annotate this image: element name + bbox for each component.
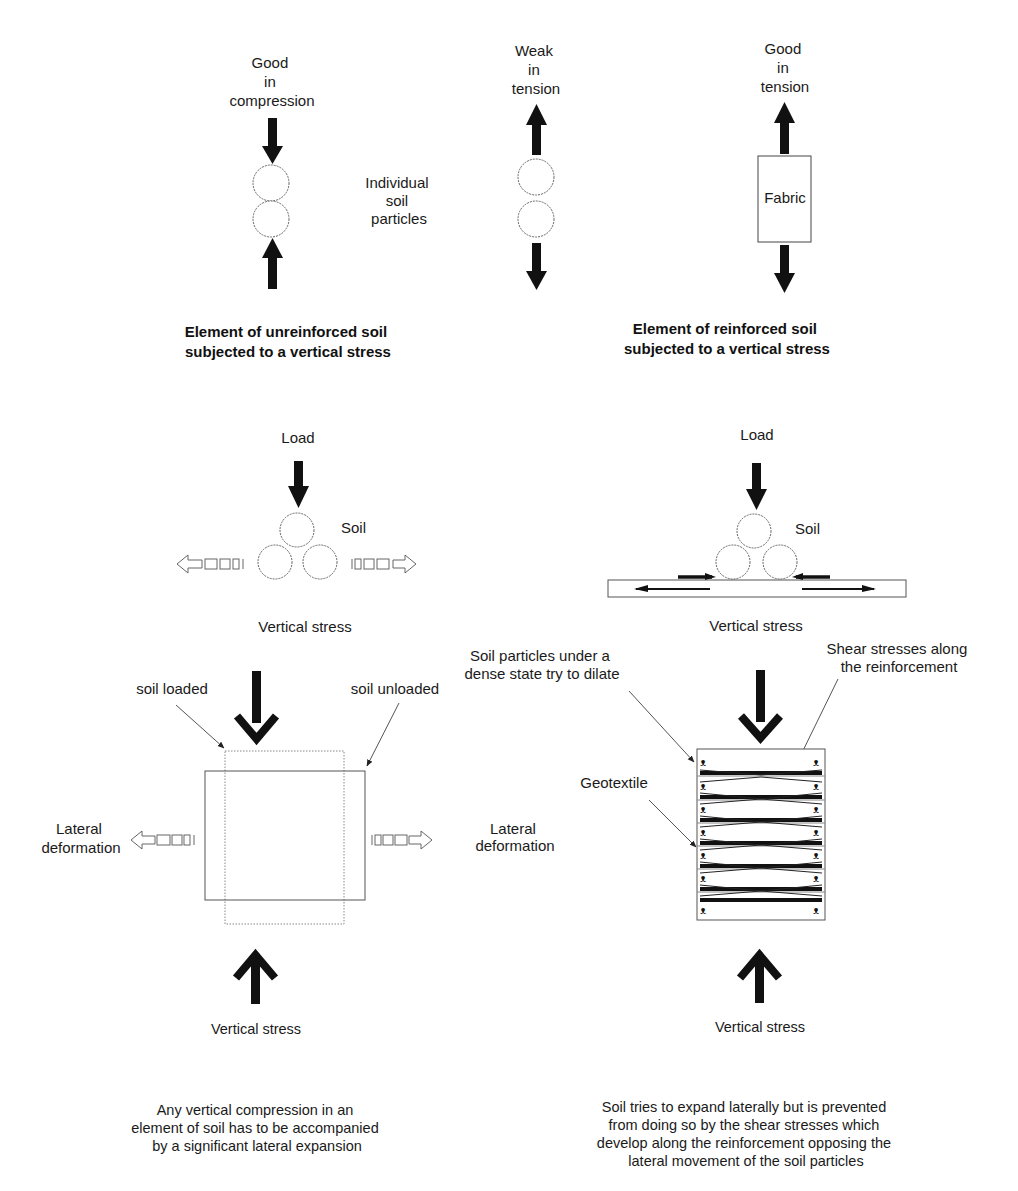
up-arrow-icon [262,238,283,289]
up-arrow-icon [740,955,779,1003]
good-in-compression-label: Good in compression [229,54,314,109]
soil-particle [258,545,292,579]
soil-particle [280,513,314,547]
up-arrow-icon [236,955,275,1004]
soil-particle [518,159,554,195]
unreinforced-caption: Element of unreinforced soil subjected t… [185,323,392,360]
unreinforced-explanation: Any vertical compression in an element o… [131,1102,383,1154]
soil-particle [716,545,750,579]
vertical-stress-label: Vertical stress [709,617,802,634]
soil-particle [518,201,554,237]
soil-unloaded-outline [205,771,365,900]
lateral-right-hollow-arrow-icon [372,831,432,849]
load-label: Load [281,429,314,446]
svg-text:ᴥ: ᴥ [700,850,706,861]
svg-text:ᴥ: ᴥ [813,873,819,884]
svg-text:ᴥ: ᴥ [700,804,706,815]
soil-label: Soil [795,520,820,537]
vertical-stress-label: Vertical stress [715,1019,805,1035]
good-in-tension-label: Good in tension [761,40,809,95]
svg-text:ᴥ: ᴥ [813,850,819,861]
svg-text:ᴥ: ᴥ [700,827,706,838]
geotextile-label: Geotextile [580,774,648,791]
lateral-deformation-left-label: Lateral deformation [41,820,120,856]
reinforced-layers-group: Soil particles under a dense state try t… [464,640,971,1169]
down-arrow-icon [288,461,309,508]
down-arrow-icon [262,118,283,164]
soil-reinforcement-diagram: Good in compression Individual soil part… [0,0,1018,1191]
soil-particle [763,545,797,579]
soil-unloaded-label: soil unloaded [351,680,439,697]
weak-in-tension-group: Weak in tension [512,42,560,290]
down-arrow-icon [741,670,780,738]
soil-unloaded-pointer [367,703,399,766]
reinforced-caption: Element of reinforced soil subjected to … [624,320,830,357]
unreinforced-element-group: Good in compression Individual soil part… [185,54,433,360]
weak-in-tension-label: Weak in tension [512,42,560,97]
lateral-left-hollow-arrow-icon [177,555,243,573]
unreinforced-load-group: Load Soil Vertical stress [177,429,416,635]
vertical-stress-label: Vertical stress [211,1021,301,1037]
reinforced-explanation: Soil tries to expand laterally but is pr… [597,1099,895,1169]
vertical-stress-label: Vertical stress [258,618,351,635]
fabric-label: Fabric [764,189,806,206]
individual-soil-particles-label: Individual soil particles [365,174,433,227]
down-arrow-icon [774,245,795,293]
soil-label: Soil [341,519,366,536]
up-arrow-icon [526,104,547,155]
load-label: Load [740,426,773,443]
soil-loaded-pointer [176,705,224,748]
lateral-right-hollow-arrow-icon [352,555,416,573]
soil-particle [303,545,337,579]
lateral-deformation-right-label: Lateral deformation [475,820,554,854]
soil-loaded-outline [225,751,344,924]
soil-loaded-label: soil loaded [136,680,208,697]
fabric-element-group: Good in tension Fabric Element of reinfo… [624,40,830,357]
up-arrow-icon [774,102,795,154]
dilate-label: Soil particles under a dense state try t… [464,647,619,682]
soil-particle [737,514,771,548]
svg-text:ᴥ: ᴥ [813,781,819,792]
reinforced-load-group: Load Soil Vertical stress [608,426,906,634]
shear-stresses-label: Shear stresses along the reinforcement [826,640,971,675]
svg-text:ᴥ: ᴥ [813,804,819,815]
soil-particle [253,201,289,237]
svg-text:ᴥ: ᴥ [700,873,706,884]
svg-text:ᴥ: ᴥ [700,781,706,792]
lateral-deformation-group: soil loaded soil unloaded Lateral deform… [41,671,554,1154]
svg-text:ᴥ: ᴥ [813,905,819,916]
dilate-pointer [629,691,694,762]
down-arrow-icon [746,463,767,510]
svg-text:ᴥ: ᴥ [813,827,819,838]
svg-text:ᴥ: ᴥ [700,905,706,916]
svg-text:ᴥ: ᴥ [700,757,706,768]
soil-particle [253,165,289,201]
lateral-left-hollow-arrow-icon [131,831,194,849]
down-arrow-icon [526,243,547,290]
down-arrow-icon [237,671,276,739]
svg-text:ᴥ: ᴥ [813,757,819,768]
geotextile-pointer [649,800,696,847]
